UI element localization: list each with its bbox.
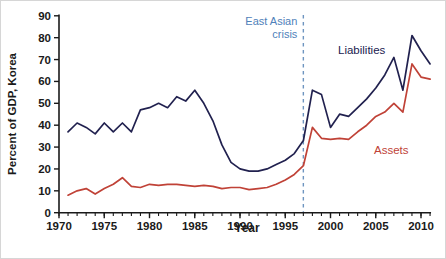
- x-axis-title: Year: [234, 221, 260, 235]
- x-tick-label: 1970: [46, 220, 72, 232]
- crisis-annotation-line2: crisis: [272, 28, 298, 40]
- y-tick-label: 70: [38, 54, 51, 66]
- x-tick-label: 2005: [363, 220, 389, 232]
- y-tick-label: 90: [38, 10, 51, 22]
- x-tick-label: 1980: [137, 220, 163, 232]
- y-tick-label: 40: [38, 119, 51, 131]
- y-axis-title: Percent of GDP, Korea: [6, 52, 18, 174]
- x-tick-label: 2000: [318, 220, 344, 232]
- x-tick-label: 1985: [182, 220, 208, 232]
- liabilities-label: Liabilities: [338, 44, 386, 56]
- korea-gdp-line-chart: 0102030405060708090197019751980198519901…: [1, 1, 446, 259]
- crisis-annotation-line1: East Asian: [245, 15, 297, 27]
- y-tick-label: 80: [38, 32, 51, 44]
- assets-label: Assets: [374, 144, 409, 156]
- y-tick-label: 50: [38, 97, 51, 109]
- x-tick-label: 2010: [408, 220, 434, 232]
- y-tick-label: 30: [38, 141, 51, 153]
- y-tick-label: 10: [38, 185, 51, 197]
- y-tick-label: 20: [38, 163, 51, 175]
- x-tick-label: 1995: [272, 220, 298, 232]
- x-tick-label: 1975: [91, 220, 117, 232]
- chart-figure: 0102030405060708090197019751980198519901…: [0, 0, 446, 259]
- y-tick-label: 60: [38, 75, 51, 87]
- assets-line: [68, 64, 430, 195]
- y-tick-label: 0: [45, 207, 51, 219]
